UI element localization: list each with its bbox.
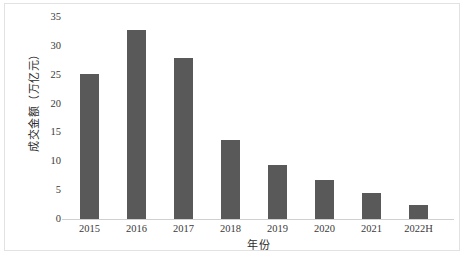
bar[interactable] — [174, 58, 193, 220]
bar[interactable] — [409, 205, 428, 220]
y-tick-label: 0 — [39, 214, 61, 224]
x-tick-label: 2018 — [207, 223, 254, 234]
chart-frame: 成交金额（万亿元） 05101520253035 201520162017201… — [4, 3, 460, 251]
bar[interactable] — [127, 30, 146, 220]
y-tick-label: 35 — [39, 12, 61, 22]
x-tick-label: 2019 — [254, 223, 301, 234]
bar-slot — [254, 18, 301, 220]
x-tick-label: 2021 — [348, 223, 395, 234]
x-tick-label: 2020 — [301, 223, 348, 234]
bar[interactable] — [268, 165, 287, 220]
x-axis-title: 年份 — [66, 236, 451, 252]
bar-chart: 成交金额（万亿元） 05101520253035 201520162017201… — [5, 4, 461, 252]
bar[interactable] — [80, 74, 99, 220]
bar-slot — [207, 18, 254, 220]
bar-slot — [395, 18, 442, 220]
y-tick-label: 10 — [39, 156, 61, 166]
y-tick-label: 25 — [39, 70, 61, 80]
bar-slot — [160, 18, 207, 220]
bars-container — [66, 17, 451, 220]
bar-slot — [66, 18, 113, 220]
y-tick-label: 30 — [39, 41, 61, 51]
y-tick-label: 20 — [39, 99, 61, 109]
x-axis-line — [62, 219, 454, 220]
bar-slot — [348, 18, 395, 220]
y-tick-label: 5 — [39, 185, 61, 195]
bar-slot — [113, 18, 160, 220]
x-tick-label: 2016 — [113, 223, 160, 234]
y-tick-label: 15 — [39, 127, 61, 137]
bar[interactable] — [362, 193, 381, 220]
x-tick-label: 2017 — [160, 223, 207, 234]
x-tick-label: 2022H — [395, 223, 442, 234]
bar[interactable] — [221, 140, 240, 220]
bar-slot — [301, 18, 348, 220]
x-tick-label: 2015 — [66, 223, 113, 234]
y-axis-tick-labels: 05101520253035 — [35, 4, 61, 252]
bar[interactable] — [315, 180, 334, 220]
